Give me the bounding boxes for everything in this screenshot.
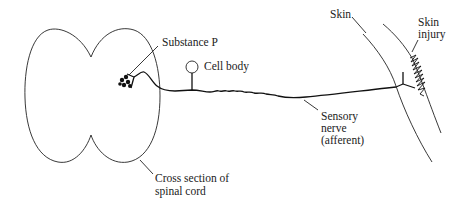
label-substance-p: Substance P [162, 36, 218, 48]
spinal-cord-outline [25, 29, 160, 163]
label-skin: Skin [330, 8, 351, 20]
substance-p-leader [129, 46, 158, 75]
cell-body-icon [186, 61, 198, 73]
skin-injury-icon [410, 55, 425, 96]
label-skin-injury-1: Skin [418, 16, 439, 28]
skin-leader [352, 17, 366, 33]
skin-outer-line [383, 24, 441, 133]
label-sensory-nerve-2: nerve [321, 122, 347, 134]
label-sensory-nerve-3: (afferent) [321, 134, 364, 147]
label-cell-body: Cell body [204, 60, 249, 73]
pain-pathway-diagram: Substance P Cell body Skin Skin injury S… [0, 0, 465, 205]
substance-p-vesicles-icon [118, 75, 132, 88]
label-skin-injury-2: injury [418, 28, 446, 41]
label-spinal-cord-2: spinal cord [155, 185, 206, 198]
spinal-cord-leader [140, 160, 153, 174]
free-nerve-ending-icon [396, 72, 415, 88]
label-spinal-cord-1: Cross section of [155, 172, 229, 184]
sensory-nerve-fiber [134, 72, 396, 98]
skin-injury-leader [412, 40, 418, 52]
skin-inner-line [363, 34, 432, 162]
sensory-nerve-leader [304, 100, 318, 110]
